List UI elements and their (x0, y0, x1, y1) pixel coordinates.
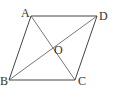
diagonal-BD (9, 16, 97, 80)
geometry-diagram: A D B C O (0, 0, 120, 99)
vertex-label-C: C (78, 74, 86, 88)
vertex-label-A: A (21, 6, 30, 20)
vertex-label-D: D (99, 9, 108, 23)
intersection-label-O: O (54, 43, 63, 57)
vertex-label-B: B (0, 74, 8, 88)
